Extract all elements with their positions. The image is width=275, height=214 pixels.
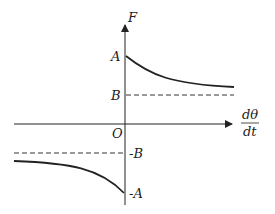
y-axis-label: F (127, 10, 138, 25)
x-axis-label-numerator: dθ (242, 107, 258, 122)
tick-label-neg-b: -B (129, 146, 143, 161)
force-vs-angular-velocity-diagram: F A B O -B -A dθ dt (0, 0, 275, 214)
negative-branch-curve (14, 161, 124, 193)
positive-branch-curve (126, 56, 234, 87)
tick-label-neg-a: -A (129, 186, 143, 201)
tick-label-a: A (110, 49, 120, 64)
x-axis-label-denominator: dt (243, 124, 257, 139)
tick-label-b: B (110, 88, 121, 103)
origin-label: O (112, 126, 123, 141)
